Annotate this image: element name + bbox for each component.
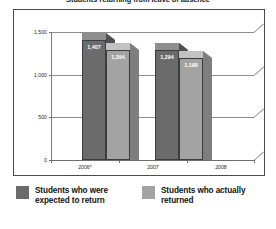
xtickmark-3 — [254, 160, 255, 163]
ytickmark-1500 — [49, 32, 51, 33]
legend-label-line1: Students who were — [35, 186, 108, 196]
depthline-1000 — [254, 66, 264, 75]
y-axis-line — [51, 32, 52, 161]
bar-value-label: 1,294 — [106, 54, 130, 61]
bar-front-face — [155, 50, 179, 160]
legend-entry-expected: Students who were expected to return — [16, 186, 108, 205]
bar-value-label: 1,407 — [82, 44, 106, 51]
bar-side-face — [203, 51, 212, 160]
legend-label-line2: returned — [161, 196, 245, 206]
legend-label-actual: Students who actually returned — [161, 186, 245, 205]
bar-2007-expected: 1,407 — [82, 40, 106, 160]
depthline-1500 — [254, 23, 264, 32]
plot-area: 1,500 1,000 500 0 1,407 1,294 — [51, 32, 263, 160]
xtick-label-2007: 2007 — [133, 164, 173, 171]
bar-2008-expected: 1,294 — [155, 50, 179, 160]
ytick-label-500: 500 — [25, 114, 47, 120]
ytickmark-1000 — [49, 75, 51, 76]
bar-front-face — [82, 40, 106, 160]
ytickmark-500 — [49, 117, 51, 118]
legend-swatch-actual — [142, 186, 155, 199]
chart-title: Students returning from leave of absence — [0, 0, 276, 5]
ytick-label-1000: 1,000 — [25, 72, 47, 78]
plot-frame: 1,500 1,000 500 0 1,407 1,294 — [13, 9, 265, 176]
ytick-label-1500: 1,500 — [25, 29, 47, 35]
bar-front-face — [179, 58, 203, 160]
legend-swatch-expected — [16, 186, 29, 199]
xtickmark-1 — [119, 160, 120, 163]
chart-legend: Students who were expected to return Stu… — [0, 186, 276, 220]
legend-label-expected: Students who were expected to return — [35, 186, 108, 205]
depthline-500 — [254, 108, 264, 117]
xtick-label-2006: 2006* — [65, 164, 105, 171]
bar-2008-actual: 1,198 — [179, 58, 203, 160]
xtickmark-2 — [187, 160, 188, 163]
legend-entry-actual: Students who actually returned — [142, 186, 245, 205]
legend-label-line1: Students who actually — [161, 186, 245, 196]
bar-2007-actual: 1,294 — [106, 50, 130, 160]
ytick-label-0: 0 — [25, 157, 47, 163]
bar-front-face — [106, 50, 130, 160]
legend-label-line2: expected to return — [35, 196, 108, 206]
floor-right-edge — [254, 151, 264, 160]
bar-side-face — [130, 43, 139, 160]
bar-value-label: 1,294 — [155, 54, 179, 61]
chart-figure: Students returning from leave of absence… — [0, 0, 276, 229]
xtick-label-2008: 2008 — [201, 164, 241, 171]
bar-value-label: 1,198 — [179, 62, 203, 69]
x-axis-line — [51, 160, 254, 161]
xtickmark-0 — [51, 160, 52, 163]
